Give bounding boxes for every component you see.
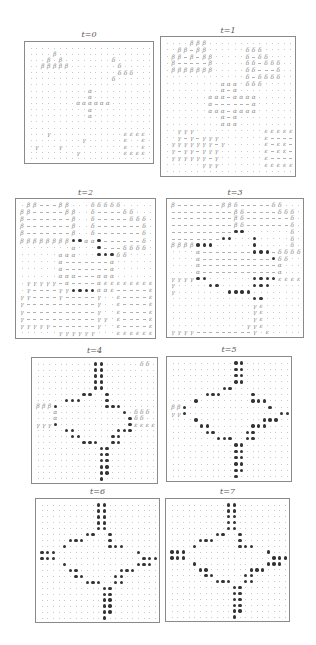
- empty-site: [176, 282, 182, 288]
- empty-site: [25, 245, 31, 251]
- empty-site: [170, 94, 176, 100]
- empty-site: [264, 316, 270, 322]
- empty-site: [170, 249, 176, 255]
- symbol-site: α: [238, 94, 244, 100]
- bullet-site: [77, 287, 83, 293]
- dash-site: [128, 294, 134, 300]
- empty-site: [239, 323, 245, 329]
- symbol-site: α: [64, 273, 70, 279]
- symbol-site: γ: [38, 280, 44, 286]
- dash-site: [38, 223, 44, 229]
- dash-site: [195, 236, 201, 242]
- dash-site: [214, 209, 220, 215]
- empty-site: [275, 81, 281, 87]
- empty-site: [32, 245, 38, 251]
- empty-site: [263, 94, 269, 100]
- symbol-site: α: [232, 121, 238, 127]
- dash-site: [208, 229, 214, 235]
- empty-site: [296, 256, 302, 262]
- empty-site: [176, 114, 182, 120]
- dash-site: [258, 262, 264, 268]
- dash-site: [90, 280, 96, 286]
- empty-site: [164, 74, 170, 80]
- empty-site: [208, 316, 214, 322]
- dash-site: [64, 230, 70, 236]
- dash-site: [96, 223, 102, 229]
- panel-title: t=0: [24, 30, 154, 39]
- empty-site: [148, 245, 154, 251]
- empty-site: [77, 252, 83, 258]
- empty-site: [214, 242, 220, 248]
- dash-site: [83, 259, 89, 265]
- empty-site: [109, 294, 115, 300]
- dash-site: [135, 301, 141, 307]
- bullet-site: [252, 282, 258, 288]
- dash-site: [183, 215, 189, 221]
- empty-site: [122, 273, 128, 279]
- symbol-site: ε: [296, 276, 302, 282]
- empty-site: [90, 252, 96, 258]
- empty-site: [271, 323, 277, 329]
- dash-site: [122, 309, 128, 315]
- empty-site: [83, 216, 89, 222]
- dash-site: [252, 269, 258, 275]
- dash-site: [135, 230, 141, 236]
- empty-site: [282, 74, 288, 80]
- empty-site: [170, 316, 176, 322]
- dash-site: [90, 301, 96, 307]
- dash-site: [32, 316, 38, 322]
- empty-site: [189, 114, 195, 120]
- dash-site: [176, 222, 182, 228]
- empty-site: [271, 282, 277, 288]
- symbol-site: δ: [251, 47, 257, 53]
- empty-site: [176, 316, 182, 322]
- bullet-site: [258, 296, 264, 302]
- symbol-site: γ: [201, 155, 207, 161]
- empty-site: [264, 229, 270, 235]
- dash-site: [227, 249, 233, 255]
- dash-site: [227, 256, 233, 262]
- empty-site: [195, 94, 201, 100]
- dash-site: [214, 236, 220, 242]
- dash-site: [135, 316, 141, 322]
- symbol-site: β: [19, 209, 25, 215]
- symbol-site: δ: [122, 252, 128, 258]
- empty-site: [269, 81, 275, 87]
- dash-site: [245, 256, 251, 262]
- empty-site: [296, 209, 302, 215]
- empty-site: [288, 60, 294, 66]
- symbol-site: δ: [257, 81, 263, 87]
- empty-site: [283, 236, 289, 242]
- symbol-site: γ: [58, 330, 64, 336]
- empty-site: [201, 289, 207, 295]
- dash-site: [226, 108, 232, 114]
- dash-site: [128, 230, 134, 236]
- dash-site: [245, 269, 251, 275]
- dash-site: [271, 269, 277, 275]
- dash-site: [77, 273, 83, 279]
- empty-site: [170, 114, 176, 120]
- dash-site: [70, 309, 76, 315]
- empty-site: [183, 296, 189, 302]
- empty-site: [277, 229, 283, 235]
- empty-site: [238, 60, 244, 66]
- dash-site: [70, 259, 76, 265]
- empty-site: [195, 101, 201, 107]
- empty-site: [296, 236, 302, 242]
- dash-site: [226, 94, 232, 100]
- dash-site: [176, 215, 182, 221]
- empty-site: [227, 303, 233, 309]
- dash-site: [141, 287, 147, 293]
- symbol-site: β: [32, 238, 38, 244]
- empty-site: [220, 309, 226, 315]
- empty-site: [164, 54, 170, 60]
- grid-panel: βββδβββββδδδδδααααααααααγεεεεγεεγγεεγεεε…: [24, 41, 154, 164]
- empty-site: [284, 373, 290, 379]
- empty-site: [238, 168, 244, 174]
- empty-site: [284, 474, 290, 480]
- empty-site: [170, 81, 176, 87]
- empty-site: [201, 74, 207, 80]
- empty-site: [220, 323, 226, 329]
- dash-site: [64, 266, 70, 272]
- symbol-site: α: [64, 280, 70, 286]
